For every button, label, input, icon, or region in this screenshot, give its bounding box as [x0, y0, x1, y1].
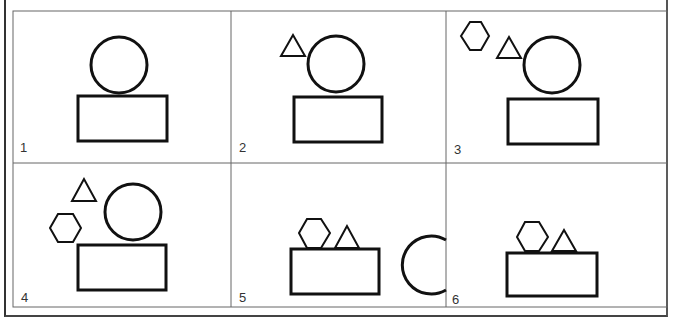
triangle-icon	[281, 35, 305, 56]
circle-icon	[105, 184, 161, 240]
panel-4-shapes	[50, 179, 166, 290]
triangle-icon	[497, 37, 521, 58]
triangle-icon	[335, 226, 359, 248]
triangle-icon	[552, 230, 576, 251]
hexagon-icon	[50, 214, 81, 242]
hexagon-icon	[461, 22, 489, 50]
circle-icon	[402, 236, 446, 294]
panel-5-label: 5	[239, 290, 246, 305]
hexagon-icon	[299, 219, 330, 248]
panel-6-label: 6	[452, 292, 459, 307]
panel-2-label: 2	[239, 140, 246, 155]
triangle-icon	[72, 179, 96, 201]
rectangle-icon	[507, 253, 597, 296]
panel-2-shapes	[281, 35, 382, 142]
panel-1-label: 1	[20, 140, 27, 155]
rectangle-icon	[291, 249, 379, 294]
hexagon-icon	[517, 222, 548, 251]
circle-icon	[524, 37, 580, 93]
panel-5-shapes	[291, 219, 446, 294]
rectangle-icon	[78, 245, 166, 290]
panel-6-shapes	[507, 222, 597, 296]
circle-icon	[91, 37, 147, 93]
rectangle-icon	[294, 97, 382, 142]
panel-grid	[0, 0, 673, 321]
rectangle-icon	[508, 99, 598, 144]
rectangle-icon	[78, 96, 167, 141]
circle-icon	[308, 36, 364, 92]
panel-3-label: 3	[454, 142, 461, 157]
panel-3-shapes	[461, 22, 598, 144]
panel-1-shapes	[78, 37, 167, 141]
panel-4-label: 4	[21, 290, 28, 305]
